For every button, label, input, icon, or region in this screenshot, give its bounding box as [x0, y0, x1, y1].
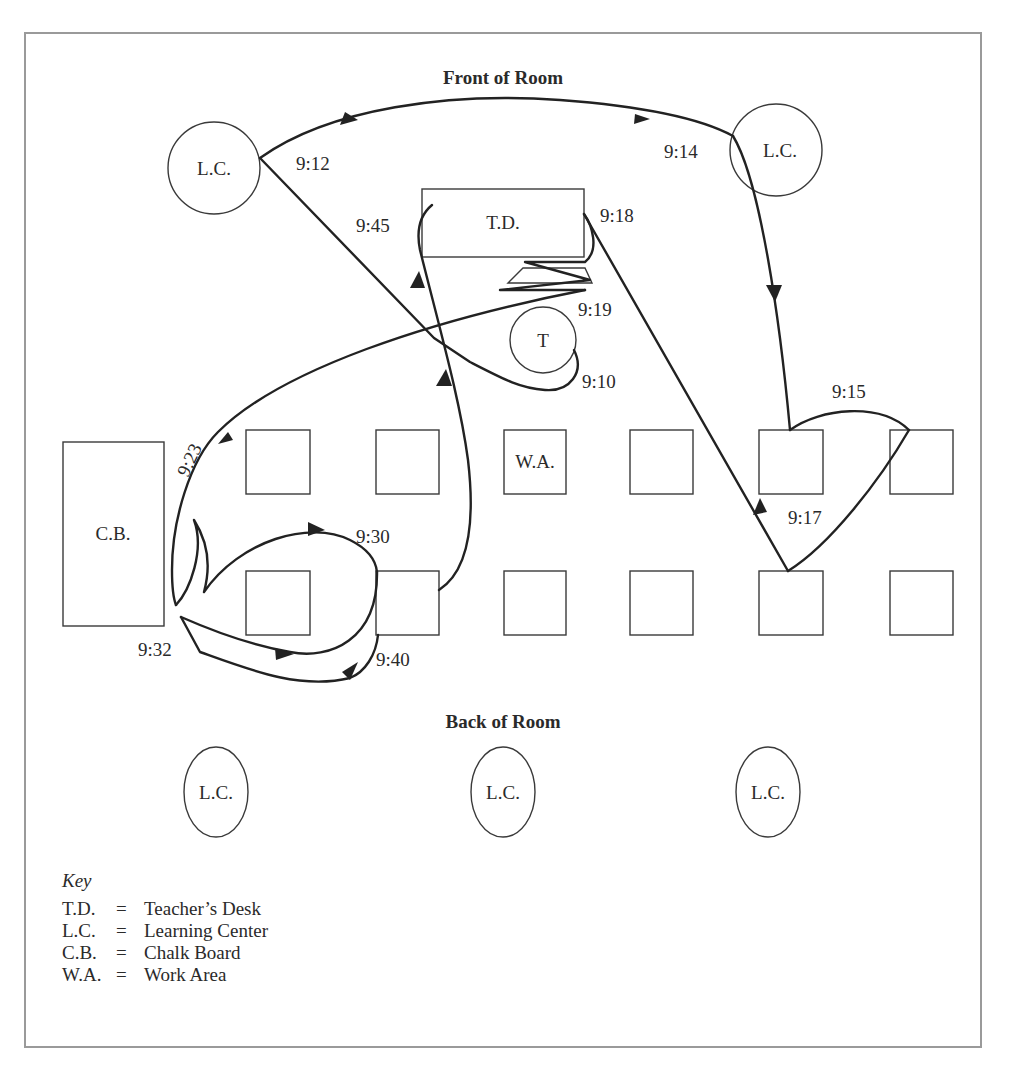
legend-title: Key [62, 870, 268, 892]
legend-entry: L.C. = Learning Center [62, 920, 268, 942]
svg-text:L.C.: L.C. [199, 782, 233, 803]
svg-text:T.D.: T.D. [486, 212, 519, 233]
arrow-icon [753, 498, 767, 515]
desk [630, 571, 693, 635]
learning-center-back-right: L.C. [736, 747, 800, 837]
desk [504, 571, 566, 635]
time-label: 9:40 [376, 649, 410, 670]
desk-grid [246, 430, 953, 635]
back-of-room-heading: Back of Room [445, 711, 560, 732]
svg-text:L.C.: L.C. [751, 782, 785, 803]
svg-text:L.C.: L.C. [763, 140, 797, 161]
learning-center-back-middle: L.C. [471, 747, 535, 837]
svg-text:L.C.: L.C. [486, 782, 520, 803]
teacher-desk: T.D. [422, 189, 584, 257]
arrow-icon [340, 112, 358, 125]
time-label: 9:32 [138, 639, 172, 660]
time-label: 9:10 [582, 371, 616, 392]
svg-text:C.B.: C.B. [96, 523, 131, 544]
arrow-icon [410, 271, 425, 288]
time-label: 9:23 [173, 440, 206, 479]
time-label: 9:15 [832, 381, 866, 402]
arrow-icon [766, 285, 782, 302]
learning-center-back-left: L.C. [184, 747, 248, 837]
arrow-icon [634, 114, 650, 124]
desk [759, 430, 823, 494]
front-of-room-heading: Front of Room [443, 67, 563, 88]
arrow-icon [218, 432, 233, 444]
learning-center-front-left: L.C. [168, 122, 260, 214]
chalk-board: C.B. [63, 442, 164, 626]
desk [376, 430, 439, 494]
time-label: 9:12 [296, 153, 330, 174]
svg-text:T: T [537, 330, 549, 351]
teacher-movement-path [172, 98, 909, 682]
desk [246, 571, 310, 635]
time-label: 9:14 [664, 141, 698, 162]
desk [376, 571, 439, 635]
legend: Key T.D. = Teacher’s Desk L.C. = Learnin… [62, 870, 268, 986]
legend-entry: T.D. = Teacher’s Desk [62, 898, 268, 920]
time-label: 9:17 [788, 507, 822, 528]
work-area-label: W.A. [515, 451, 554, 472]
desk [890, 430, 953, 494]
legend-entry: C.B. = Chalk Board [62, 942, 268, 964]
time-label: 9:19 [578, 299, 612, 320]
legend-entry: W.A. = Work Area [62, 964, 268, 986]
desk [759, 571, 823, 635]
arrow-icon [342, 662, 358, 680]
time-label: 9:45 [356, 215, 390, 236]
arrow-icon [308, 522, 325, 536]
time-label: 9:30 [356, 526, 390, 547]
desk [246, 430, 310, 494]
learning-center-front-right: L.C. [730, 104, 822, 196]
desk [890, 571, 953, 635]
svg-text:L.C.: L.C. [197, 158, 231, 179]
desk [630, 430, 693, 494]
time-label: 9:18 [600, 205, 634, 226]
teacher-position: T [510, 307, 576, 373]
